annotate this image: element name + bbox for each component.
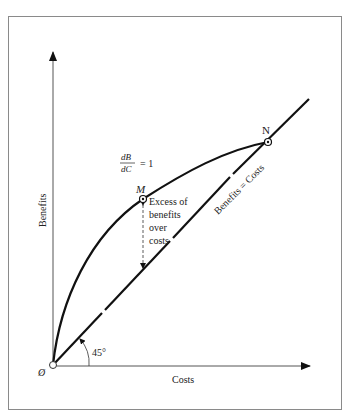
angle-arc (80, 339, 89, 366)
x-axis-label: Costs (172, 374, 194, 385)
angle-label: 45° (92, 347, 106, 358)
excess-label-line2: benefits (149, 209, 181, 220)
excess-label-line3: over (149, 222, 167, 233)
origin-label: Ø (37, 367, 46, 378)
origin-point (50, 362, 57, 369)
point-m (140, 196, 147, 203)
excess-label-line4: costs (149, 235, 169, 246)
point-n (265, 139, 272, 146)
derivative-numerator: dB (121, 152, 132, 162)
derivative-denominator: dC (121, 164, 133, 174)
y-axis-label: Benefits (37, 194, 48, 227)
derivative-equals: = 1 (140, 158, 153, 169)
excess-label-line1: Excess of (149, 196, 188, 207)
point-n-label: N (262, 124, 270, 136)
point-m-label: M (135, 183, 146, 195)
cost-benefit-diagram: M N dB dC = 1 Excess of benefits over co… (0, 0, 351, 415)
